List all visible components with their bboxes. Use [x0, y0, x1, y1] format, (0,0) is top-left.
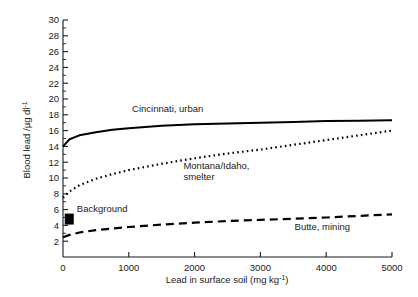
y-axis-title: Blood lead /µg dl-1: [21, 101, 33, 178]
background-marker-label: Background: [77, 203, 128, 214]
x-tick-label-3000: 3000: [250, 262, 271, 273]
series-label-cincinnati-urban: Cincinnati, urban: [132, 103, 203, 114]
y-tick-label-16: 16: [48, 125, 59, 136]
chart-figure: 24681012141618202224262830 0100020003000…: [0, 0, 418, 297]
y-tick-label-10: 10: [48, 172, 59, 183]
x-tick-label-1000: 1000: [118, 262, 139, 273]
blood-lead-vs-soil-lead-chart: 24681012141618202224262830 0100020003000…: [0, 0, 418, 297]
series-label-butte-mining: Butte, mining: [295, 221, 350, 232]
y-tick-label-12: 12: [48, 157, 59, 168]
y-tick-label-6: 6: [54, 204, 59, 215]
y-tick-label-24: 24: [48, 62, 59, 73]
y-tick-label-30: 30: [48, 14, 59, 25]
x-tick-label-5000: 5000: [381, 262, 402, 273]
x-tick-label-2000: 2000: [184, 262, 205, 273]
x-tick-label-4000: 4000: [316, 262, 337, 273]
x-tick-label-0: 0: [60, 262, 65, 273]
y-tick-label-22: 22: [48, 78, 59, 89]
y-tick-label-8: 8: [54, 188, 59, 199]
y-tick-label-14: 14: [48, 141, 59, 152]
y-tick-label-4: 4: [54, 220, 59, 231]
x-axis-title: Lead in surface soil (mg kg-1): [166, 274, 289, 286]
y-tick-label-26: 26: [48, 46, 59, 57]
y-tick-label-20: 20: [48, 93, 59, 104]
y-tick-label-2: 2: [54, 236, 59, 247]
y-tick-label-28: 28: [48, 30, 59, 41]
background-marker-square: [65, 214, 74, 225]
y-tick-label-18: 18: [48, 109, 59, 120]
